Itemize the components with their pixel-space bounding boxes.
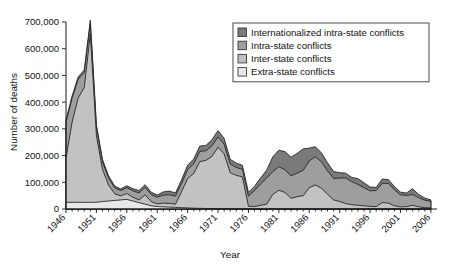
legend-swatch-1	[238, 41, 247, 50]
x-tick-label: 1981	[258, 212, 281, 235]
y-tick-label: 500,000	[25, 70, 59, 81]
y-tick-labels: 0100,000200,000300,000400,000500,000600,…	[25, 16, 59, 214]
x-tick-label: 1976	[227, 212, 250, 235]
x-tick-label: 1961	[136, 212, 159, 235]
y-tick-label: 700,000	[25, 16, 59, 27]
legend: Internationalized intra-state conflictsI…	[233, 23, 429, 82]
x-tick-label: 1951	[75, 212, 98, 235]
x-axis-title: Year	[220, 249, 241, 260]
x-tick-label: 1971	[197, 212, 220, 235]
legend-label-3: Extra-state conflicts	[251, 66, 335, 77]
x-tick-label: 1956	[106, 212, 129, 235]
x-tick-label: 1991	[318, 212, 341, 235]
legend-swatch-3	[238, 68, 247, 77]
y-tick-label: 100,000	[25, 177, 59, 188]
legend-label-2: Inter-state conflicts	[251, 53, 332, 64]
y-tick-label: 600,000	[25, 43, 59, 54]
y-tick-label: 400,000	[25, 97, 59, 108]
x-tick-label: 1966	[166, 212, 189, 235]
deaths-by-conflict-type-area-chart: 0100,000200,000300,000400,000500,000600,…	[0, 0, 458, 270]
x-tick-label: 2001	[379, 212, 402, 235]
x-tick-label: 1946	[45, 212, 68, 235]
legend-swatch-0	[238, 28, 247, 37]
legend-label-1: Intra-state conflicts	[251, 40, 332, 51]
x-tick-label: 1996	[349, 212, 372, 235]
y-tick-label: 200,000	[25, 150, 59, 161]
y-tick-label: 300,000	[25, 123, 59, 134]
x-tick-labels: 1946195119561961196619711976198119861991…	[45, 212, 433, 235]
chart-container: 0100,000200,000300,000400,000500,000600,…	[0, 0, 458, 270]
y-axis-title: Number of deaths	[8, 73, 19, 151]
legend-swatch-2	[238, 54, 247, 63]
x-tick-label: 1986	[288, 212, 311, 235]
x-tick-label: 2006	[410, 212, 433, 235]
legend-label-0: Internationalized intra-state conflicts	[251, 27, 404, 38]
